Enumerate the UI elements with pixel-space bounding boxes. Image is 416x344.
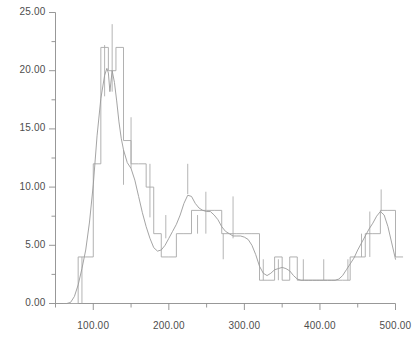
smooth-curve-trace [63,68,395,303]
x-axis-tick-label: 100.00 [67,320,119,331]
x-axis-tick-label: 500.00 [370,320,416,331]
x-axis-tick-label: 400.00 [294,320,346,331]
y-axis-tick-label: 5.00 [25,239,45,250]
y-axis-tick-label: 10.00 [19,181,45,192]
x-axis-tick-label: 200.00 [143,320,195,331]
y-axis-tick-label: 20.00 [19,64,45,75]
y-axis-tick-label: 15.00 [19,122,45,133]
y-axis-tick-label: 25.00 [19,6,45,17]
error-spikes-trace [82,24,381,303]
x-axis-tick-label: 300.00 [218,320,270,331]
step-histogram-trace [63,47,403,303]
y-axis-tick-label: 0.00 [25,297,45,308]
